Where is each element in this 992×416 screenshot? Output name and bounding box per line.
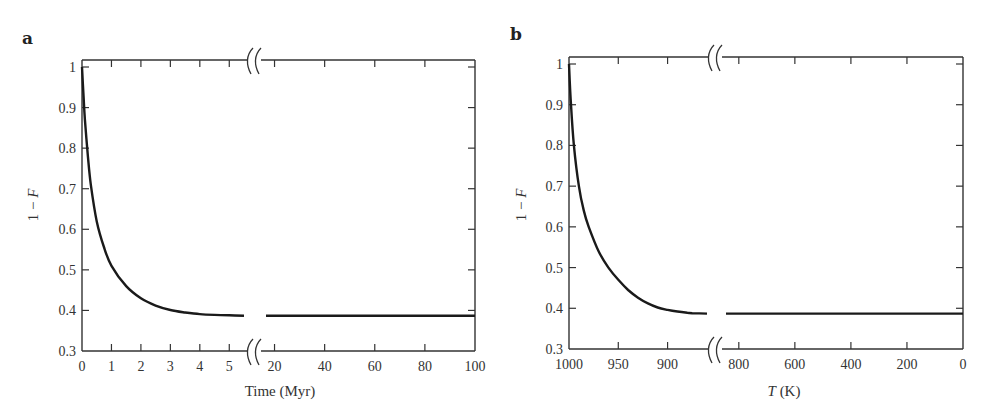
y-tick-label: 0.9 bbox=[59, 101, 77, 116]
panel-a-chart: a 0.30.40.50.60.70.80.91 012345204060801… bbox=[22, 28, 486, 400]
panel-a-x-axis-title: Time (Myr) bbox=[245, 383, 316, 400]
y-tick-label: 0.9 bbox=[546, 98, 564, 113]
x-title-unit: (K) bbox=[776, 383, 801, 400]
panel-b-curve-segment-1 bbox=[569, 64, 707, 314]
y-title-F: F bbox=[25, 188, 41, 199]
y-title-one-minus: 1 − bbox=[25, 198, 41, 221]
x-tick-label: 3 bbox=[167, 359, 174, 374]
axis-break-mark bbox=[255, 48, 261, 74]
x-tick-label: 0 bbox=[79, 359, 86, 374]
x-tick-label: 800 bbox=[728, 357, 749, 372]
panel-b-axis-break-icon bbox=[708, 45, 722, 363]
panel-b-label: b bbox=[510, 24, 522, 44]
panel-b-y-axis-title: 1 − F bbox=[513, 188, 529, 221]
y-tick-label: 0.5 bbox=[546, 261, 564, 276]
axis-break-mark bbox=[708, 45, 714, 71]
x-tick-label: 100 bbox=[465, 359, 486, 374]
panel-b-y-ticks: 0.30.40.50.60.70.80.91 bbox=[546, 57, 964, 357]
axis-break-mark bbox=[247, 339, 253, 365]
x-tick-label: 5 bbox=[226, 359, 233, 374]
axis-break-mark bbox=[247, 48, 253, 74]
y-tick-label: 0.6 bbox=[59, 222, 77, 237]
y-tick-label: 0.6 bbox=[546, 220, 564, 235]
x-tick-label: 4 bbox=[196, 359, 203, 374]
panel-a-axes bbox=[82, 60, 475, 351]
y-tick-label: 0.3 bbox=[59, 344, 77, 359]
y-tick-label: 1 bbox=[556, 57, 563, 72]
x-tick-label: 20 bbox=[268, 359, 282, 374]
y-title-F: F bbox=[513, 188, 529, 199]
y-tick-label: 0.8 bbox=[546, 138, 564, 153]
x-tick-label: 1 bbox=[108, 359, 115, 374]
x-tick-label: 60 bbox=[368, 359, 382, 374]
y-tick-label: 0.3 bbox=[546, 342, 564, 357]
x-tick-label: 200 bbox=[896, 357, 917, 372]
x-tick-label: 40 bbox=[318, 359, 332, 374]
x-tick-label: 0 bbox=[960, 357, 967, 372]
figure: a 0.30.40.50.60.70.80.91 012345204060801… bbox=[0, 0, 992, 416]
axis-break-mark bbox=[716, 337, 722, 363]
panel-a-label: a bbox=[22, 28, 33, 48]
x-tick-label: 80 bbox=[418, 359, 432, 374]
y-tick-label: 0.4 bbox=[546, 301, 564, 316]
panel-a-curve-segment-1 bbox=[82, 67, 244, 316]
panel-a-x-ticks: 01234520406080100 bbox=[79, 60, 486, 374]
panel-b-axes bbox=[569, 57, 963, 349]
axis-break-mark bbox=[255, 339, 261, 365]
axis-break-mark bbox=[708, 337, 714, 363]
panel-b-chart: b 0.30.40.50.60.70.80.91 100095090080060… bbox=[510, 24, 967, 400]
y-tick-label: 0.7 bbox=[59, 182, 77, 197]
y-title-one-minus: 1 − bbox=[513, 198, 529, 221]
panel-b-x-ticks: 10009509008006004002000 bbox=[555, 57, 967, 372]
y-tick-label: 0.7 bbox=[546, 179, 564, 194]
x-tick-label: 600 bbox=[784, 357, 805, 372]
panel-b-x-axis-title: T (K) bbox=[768, 383, 801, 400]
x-tick-label: 1000 bbox=[555, 357, 583, 372]
x-tick-label: 400 bbox=[840, 357, 861, 372]
y-tick-label: 0.4 bbox=[59, 303, 77, 318]
y-tick-label: 0.8 bbox=[59, 141, 77, 156]
panel-a-y-ticks: 0.30.40.50.60.70.80.91 bbox=[59, 60, 476, 359]
x-tick-label: 950 bbox=[608, 357, 629, 372]
axis-break-mark bbox=[716, 45, 722, 71]
panel-a-y-axis-title: 1 − F bbox=[25, 188, 41, 221]
y-tick-label: 0.5 bbox=[59, 263, 77, 278]
x-tick-label: 900 bbox=[657, 357, 678, 372]
x-tick-label: 2 bbox=[137, 359, 144, 374]
y-tick-label: 1 bbox=[69, 60, 76, 75]
panel-a-axis-break-icon bbox=[247, 48, 261, 365]
